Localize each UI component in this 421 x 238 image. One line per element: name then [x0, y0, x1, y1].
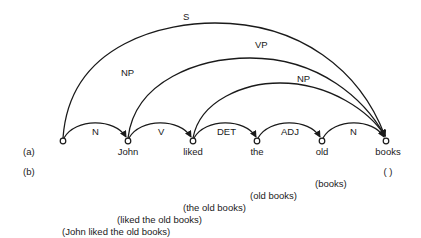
remainder-empty: ( )	[384, 166, 393, 177]
node-old	[319, 138, 325, 144]
transition-network-diagram: S VP NP NP N V DET ADJ N (a) (b) John li…	[0, 0, 421, 238]
remainder-old-books: (old books)	[250, 190, 297, 201]
node-the	[254, 138, 260, 144]
row-label-b: (b)	[23, 166, 35, 177]
word-books: books	[375, 146, 401, 157]
node-john	[125, 138, 131, 144]
node-0	[60, 138, 66, 144]
node-liked	[190, 138, 196, 144]
arc-s	[63, 23, 385, 138]
label-np-right: NP	[297, 73, 310, 84]
label-det: DET	[217, 126, 236, 137]
label-s: S	[183, 11, 189, 22]
label-v: V	[158, 126, 165, 137]
label-n2: N	[350, 126, 357, 137]
word-liked: liked	[183, 146, 203, 157]
label-n1: N	[92, 126, 99, 137]
arc-vp	[128, 58, 385, 138]
remainder-john-liked-the-old-books: (John liked the old books)	[62, 226, 170, 237]
label-np-left: NP	[121, 67, 134, 78]
remainder-the-old-books: (the old books)	[183, 202, 246, 213]
remainder-books: (books)	[315, 178, 347, 189]
word-john: John	[118, 146, 139, 157]
word-the: the	[250, 146, 263, 157]
remainder-liked-the-old-books: (liked the old books)	[117, 214, 202, 225]
row-label-a: (a)	[23, 146, 35, 157]
label-vp: VP	[255, 39, 268, 50]
word-old: old	[316, 146, 329, 157]
node-books	[383, 138, 389, 144]
label-adj: ADJ	[281, 126, 299, 137]
